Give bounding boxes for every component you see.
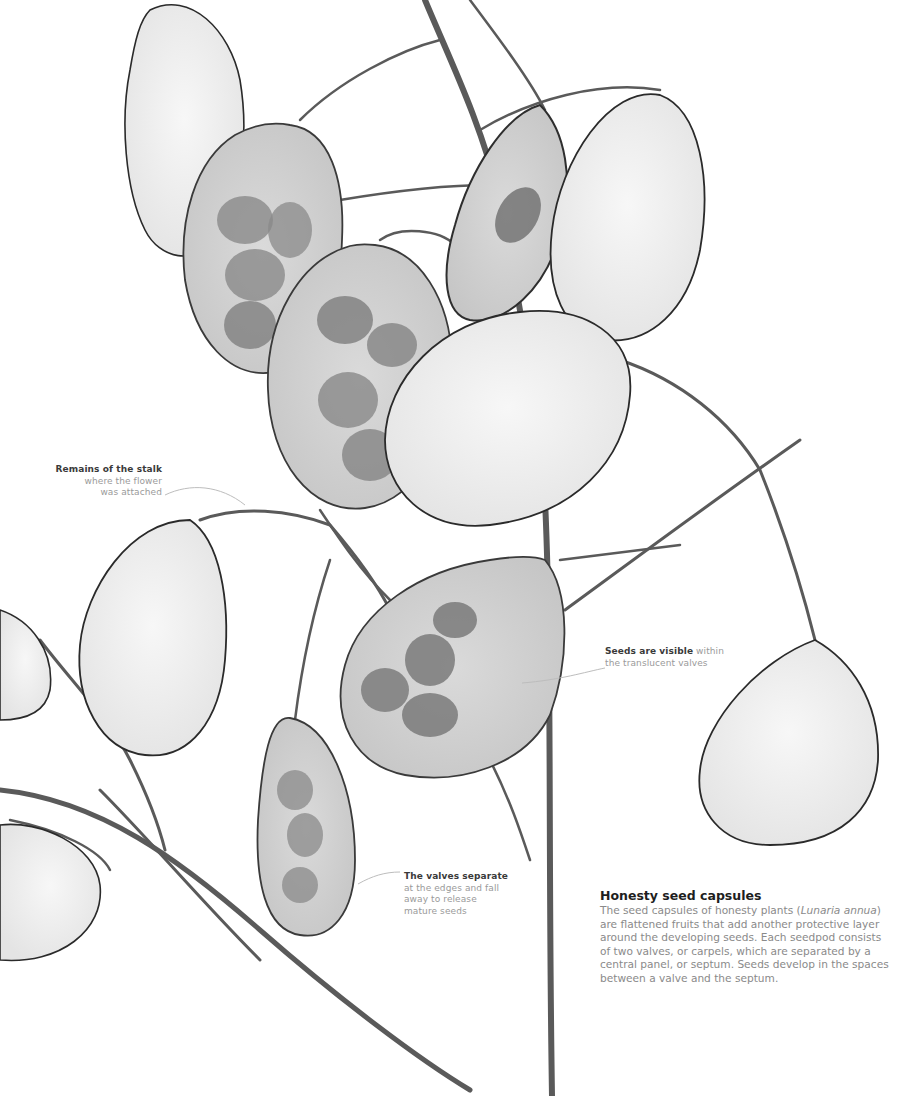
figure-caption: Honesty seed capsules The seed capsules … — [600, 888, 890, 986]
annotation-heading: Remains of the stalk — [56, 464, 162, 474]
annotation-stalk-remains: Remains of the stalk where the flower wa… — [40, 464, 162, 499]
caption-body: The seed capsules of honesty plants (Lun… — [600, 904, 890, 986]
caption-title: Honesty seed capsules — [600, 888, 890, 903]
annotation-heading: Seeds are visible — [605, 646, 693, 656]
seedpod-with-seeds — [341, 557, 565, 778]
annotation-heading: The valves separate — [404, 871, 508, 881]
seedpod — [551, 94, 705, 340]
annotation-valves-separate: The valves separate at the edges and fal… — [404, 871, 524, 917]
seedpod-with-seeds — [257, 718, 355, 936]
seedpod — [699, 640, 878, 845]
seedpod-with-seeds — [447, 105, 567, 320]
species-name: Lunaria annua — [801, 904, 877, 916]
seedpod — [79, 520, 226, 755]
annotation-seeds-visible: Seeds are visible within the translucent… — [605, 646, 755, 669]
